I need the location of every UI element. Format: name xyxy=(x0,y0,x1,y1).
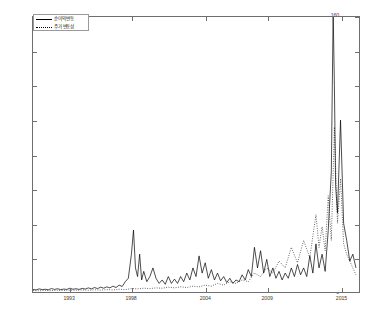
y-tick-mark xyxy=(33,259,37,260)
x-tick-mark-top xyxy=(268,17,269,21)
x-tick-label: 2004 xyxy=(200,296,211,301)
y-tick-mark-right xyxy=(355,259,359,260)
y-tick-mark-right xyxy=(355,52,359,53)
y-tick-mark-right xyxy=(355,190,359,191)
legend-swatch-solid-icon xyxy=(36,17,52,23)
x-tick-mark-top xyxy=(206,17,207,21)
plot-area xyxy=(32,16,360,293)
y-tick-mark xyxy=(33,156,37,157)
y-tick-mark xyxy=(33,225,37,226)
y-tick-mark xyxy=(33,86,37,87)
y-tick-mark xyxy=(33,190,37,191)
y-tick-mark xyxy=(33,121,37,122)
legend-label-1: 주가 변동성 xyxy=(54,25,74,30)
y-tick-mark-right xyxy=(355,86,359,87)
x-tick-mark xyxy=(342,288,343,292)
y-tick-mark-right xyxy=(355,17,359,18)
x-tick-label: 2015 xyxy=(336,296,347,301)
legend-entry-1: 주가 변동성 xyxy=(36,24,74,31)
chart-legend: 순이익 변동 주가 변동성 xyxy=(33,14,89,31)
x-tick-label: 1998 xyxy=(125,296,136,301)
x-tick-mark xyxy=(206,288,207,292)
y-tick-mark-right xyxy=(355,121,359,122)
y-tick-mark-right xyxy=(355,225,359,226)
x-tick-mark xyxy=(70,288,71,292)
x-tick-mark xyxy=(132,288,133,292)
x-tick-mark-top xyxy=(342,17,343,21)
series-line-solid xyxy=(33,17,356,290)
legend-entry-0: 순이익 변동 xyxy=(36,16,74,23)
series-lines xyxy=(33,17,359,292)
series-line-dotted xyxy=(33,127,356,291)
x-tick-mark-top xyxy=(132,17,133,21)
x-tick-label: 2009 xyxy=(262,296,273,301)
y-tick-mark xyxy=(33,52,37,53)
x-tick-label: 1993 xyxy=(64,296,75,301)
y-tick-mark-right xyxy=(355,156,359,157)
legend-label-0: 순이익 변동 xyxy=(54,17,74,22)
figure-canvas: 020406080100120140160 199319982004200920… xyxy=(0,0,373,320)
legend-swatch-dotted-icon xyxy=(36,24,52,30)
x-tick-mark xyxy=(268,288,269,292)
